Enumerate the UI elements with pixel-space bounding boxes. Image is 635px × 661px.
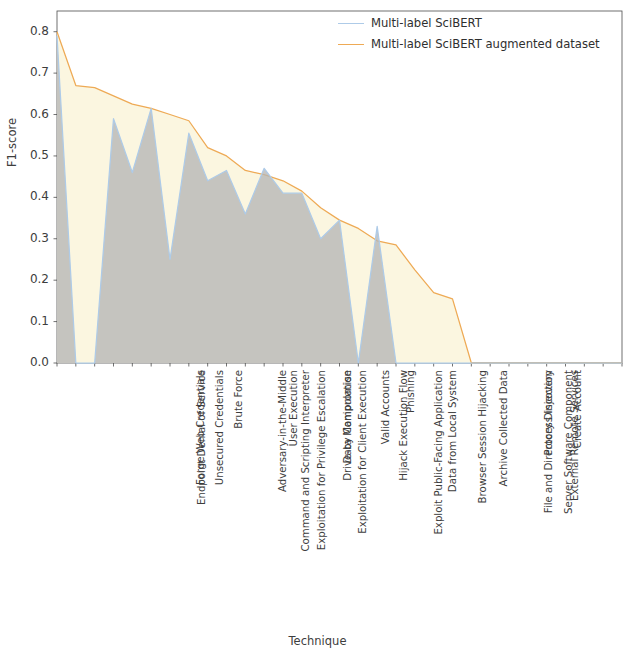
legend-line-swatch-scibert-augmented	[338, 44, 364, 45]
x-tick-label: Exploit Public-Facing Application	[433, 370, 444, 535]
chart-plot-area	[0, 0, 635, 661]
x-tick-label: Unsecured Credentials	[214, 370, 225, 485]
x-tick-label: Create Account	[572, 370, 583, 448]
x-tick-label: Valid Accounts	[380, 370, 391, 444]
legend: Multi-label SciBERT Multi-label SciBERT …	[338, 16, 600, 52]
x-axis-title: Technique	[0, 634, 635, 648]
legend-line-swatch-scibert	[338, 23, 364, 24]
x-tick-label: Command and Scripting Interpreter	[299, 370, 310, 552]
legend-item-0: Multi-label SciBERT	[338, 16, 600, 31]
x-tick-label: Data from Local System	[447, 370, 458, 492]
x-tick-label: Exploitation for Privilege Escalation	[316, 370, 327, 550]
legend-item-1: Multi-label SciBERT augmented dataset	[338, 37, 600, 52]
x-tick-label: Forge Web Credentials	[195, 370, 206, 485]
x-tick-label: Process Injection	[542, 370, 553, 456]
y-axis-ticks	[54, 32, 58, 363]
x-tick-label: User Execution	[288, 370, 299, 446]
x-tick-label: Brute Force	[233, 370, 244, 429]
x-tick-label: Data Manipulation	[343, 370, 354, 463]
x-tick-label: Adversary-in-the-Middle	[277, 370, 288, 492]
x-tick-label: Exploitation for Client Execution	[357, 370, 368, 534]
figure-container: F1-score 0.00.10.20.30.40.50.60.70.8 End…	[0, 0, 635, 661]
x-tick-label: Browser Session Hijacking	[477, 370, 488, 503]
legend-label-scibert-augmented: Multi-label SciBERT augmented dataset	[371, 39, 600, 51]
x-tick-label: Phishing	[405, 370, 416, 413]
x-tick-label: Archive Collected Data	[498, 370, 509, 487]
legend-label-scibert: Multi-label SciBERT	[371, 18, 482, 30]
